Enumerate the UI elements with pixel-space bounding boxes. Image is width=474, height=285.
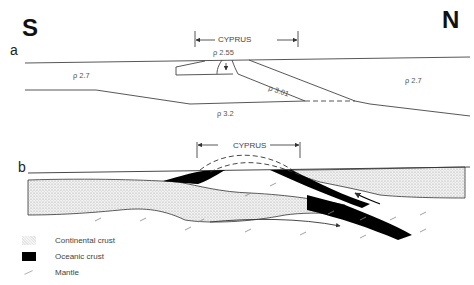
legend-item-continental: Continental crust xyxy=(22,232,115,248)
legend-label: Continental crust xyxy=(55,236,115,245)
panel-b-region-label: CYPRUS xyxy=(233,141,266,150)
legend-item-mantle: Mantle xyxy=(22,264,115,280)
panel-b: CYPRUS xyxy=(28,141,470,240)
cyprus-cross-section-diagram: S N a b xyxy=(0,0,474,285)
legend-label: Mantle xyxy=(55,268,79,277)
density-north-crust: ρ 2.7 xyxy=(405,76,422,85)
panel-a-region-label: CYPRUS xyxy=(218,35,251,44)
mantle-swatch-icon xyxy=(22,268,36,277)
oceanic-crust-swatch-icon xyxy=(22,252,36,261)
legend: Continental crust Oceanic crust Mantle xyxy=(22,232,115,280)
continental-crust-swatch-icon xyxy=(22,236,36,245)
panel-a-text: CYPRUS ρ 2.55 ρ 2.7 ρ 3.01 ρ 2.7 ρ 3.2 xyxy=(73,35,422,118)
density-cyprus-block: ρ 2.55 xyxy=(213,48,234,57)
density-south-crust: ρ 2.7 xyxy=(73,71,90,80)
legend-item-oceanic: Oceanic crust xyxy=(22,248,115,264)
continental-crust-south xyxy=(28,179,345,222)
density-slab: ρ 3.01 xyxy=(267,83,290,98)
oceanic-crust-south xyxy=(163,170,225,184)
legend-label: Oceanic crust xyxy=(55,252,104,261)
density-mantle: ρ 3.2 xyxy=(217,109,234,118)
